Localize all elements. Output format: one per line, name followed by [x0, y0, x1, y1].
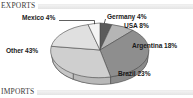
exports-header-rule — [38, 4, 193, 9]
exports-section-label: EXPORTS — [0, 2, 35, 10]
pie-label-germany: Germany 4% — [107, 14, 146, 21]
germany-leader-line — [104, 19, 105, 24]
pie-label-brazil: Brazil 23% — [118, 71, 151, 78]
mexico-leader-line — [59, 21, 95, 25]
exports-pie-chart-panel: EXPORTS — [0, 0, 193, 98]
exports-section-header: EXPORTS — [0, 0, 193, 12]
imports-header-rule — [37, 90, 193, 95]
chart-stage: Mexico 4% Germany 4% USA 8% Argentina 18… — [0, 12, 193, 86]
pie-label-mexico: Mexico 4% — [22, 15, 55, 22]
pie-label-other: Other 43% — [6, 48, 38, 55]
imports-section-label: IMPORTS — [0, 88, 34, 96]
pie-label-argentina: Argentina 18% — [132, 43, 177, 50]
pie-label-usa: USA 8% — [124, 23, 149, 30]
imports-section-header: IMPORTS — [0, 86, 193, 98]
